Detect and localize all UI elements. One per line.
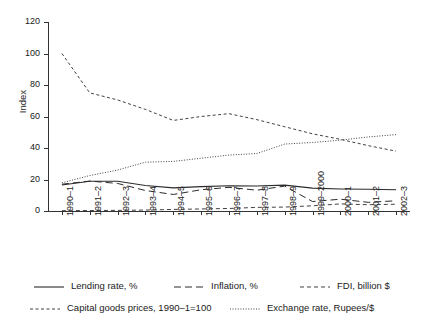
y-axis-title: Index	[17, 62, 28, 142]
series-line-4	[62, 135, 396, 183]
x-tick-mark	[229, 211, 230, 215]
series-lines	[48, 22, 410, 211]
y-tick-label: 20	[8, 175, 40, 184]
legend-item-1[interactable]: Inflation, %	[174, 281, 258, 291]
y-tick-mark	[44, 211, 49, 212]
x-tick-mark	[285, 211, 286, 215]
legend-item-4[interactable]: Exchange rate, Rupees/$	[230, 303, 374, 313]
series-line-3	[62, 54, 396, 152]
legend-row: Capital goods prices, 1990–1=100Exchange…	[0, 298, 434, 318]
x-tick-mark	[396, 211, 397, 215]
legend-swatch-icon	[174, 282, 204, 291]
chart-figure: Index 020406080100120 1990–11991–21992–3…	[0, 0, 434, 336]
x-tick-mark	[145, 211, 146, 215]
y-tick-label: 100	[8, 49, 40, 58]
legend-label: Lending rate, %	[71, 281, 138, 291]
legend-swatch-icon	[30, 304, 60, 313]
chart-legend: Lending rate, %Inflation, %FDI, billion …	[0, 276, 434, 322]
plot-area	[48, 22, 410, 211]
x-tick-mark	[90, 211, 91, 215]
x-tick-mark	[257, 211, 258, 215]
legend-label: Exchange rate, Rupees/$	[267, 303, 374, 313]
series-line-2	[62, 204, 396, 211]
legend-swatch-icon	[230, 304, 260, 313]
legend-item-2[interactable]: FDI, billion $	[300, 281, 390, 291]
x-tick-mark	[118, 211, 119, 215]
x-tick-mark	[340, 211, 341, 215]
x-tick-mark	[62, 211, 63, 215]
legend-swatch-icon	[34, 282, 64, 291]
x-tick-mark	[173, 211, 174, 215]
y-tick-label: 40	[8, 143, 40, 152]
y-tick-label: 0	[8, 206, 40, 215]
legend-item-0[interactable]: Lending rate, %	[34, 281, 138, 291]
x-tick-mark	[313, 211, 314, 215]
y-tick-label: 60	[8, 112, 40, 121]
legend-item-3[interactable]: Capital goods prices, 1990–1=100	[30, 303, 211, 313]
x-tick-mark	[201, 211, 202, 215]
legend-swatch-icon	[300, 282, 330, 291]
x-tick-mark	[368, 211, 369, 215]
y-tick-label: 80	[8, 80, 40, 89]
legend-row: Lending rate, %Inflation, %FDI, billion …	[0, 276, 434, 296]
legend-label: FDI, billion $	[337, 281, 390, 291]
legend-label: Inflation, %	[211, 281, 258, 291]
y-tick-label: 120	[8, 17, 40, 26]
series-line-1	[62, 181, 396, 202]
legend-label: Capital goods prices, 1990–1=100	[67, 303, 211, 313]
